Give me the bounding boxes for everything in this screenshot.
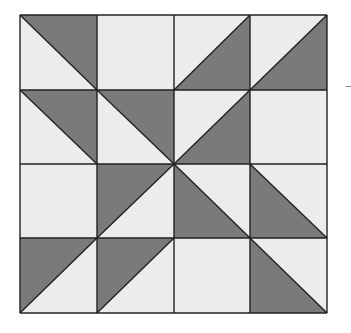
- light-patch: [20, 164, 97, 238]
- light-patch: [250, 90, 327, 164]
- stray-tick-mark: [346, 86, 351, 87]
- light-patch: [174, 238, 250, 313]
- light-patch: [97, 15, 174, 90]
- quilt-block-diagram: [0, 0, 351, 333]
- quilt-grid-lines: [20, 15, 327, 313]
